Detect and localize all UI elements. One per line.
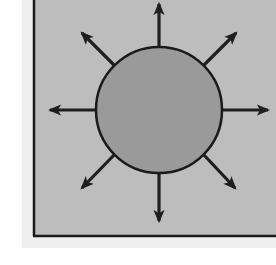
central-circle <box>96 47 222 173</box>
diagram-panel <box>0 0 276 265</box>
radiating-circle-diagram <box>0 0 276 265</box>
